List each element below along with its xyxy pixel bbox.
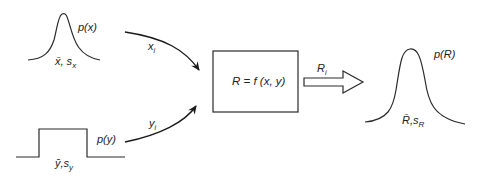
y-stats-label: ȳ,sy	[55, 158, 73, 172]
arrow-yi	[125, 106, 196, 142]
r-stats-main: R̄,s	[402, 114, 419, 126]
pr-normal-curve	[365, 49, 465, 124]
arrow-xi	[125, 32, 199, 70]
py-label: p(y)	[97, 134, 116, 145]
x-stats-sub: x	[72, 61, 76, 70]
ri-label: Ri	[317, 63, 327, 76]
y-stats-sub: y	[69, 163, 73, 172]
px-label: p(x)	[78, 22, 97, 33]
x-stats-main: x̄, s	[55, 55, 72, 67]
yi-label: yi	[149, 118, 156, 131]
y-stats-main: ȳ,s	[55, 157, 69, 169]
output-block-arrow	[304, 71, 363, 93]
r-stats-label: R̄,sR	[402, 115, 424, 129]
ri-main: R	[317, 62, 325, 74]
pr-label: p(R)	[434, 49, 455, 60]
yi-sub: i	[155, 124, 157, 131]
function-equation: R = f (x, y)	[232, 76, 285, 88]
xi-sub: i	[154, 47, 156, 54]
xi-label: xi	[148, 41, 155, 54]
x-stats-label: x̄, sx	[55, 56, 76, 70]
diagram-canvas	[0, 0, 484, 179]
r-stats-sub: R	[419, 120, 425, 129]
ri-sub: i	[325, 69, 327, 76]
